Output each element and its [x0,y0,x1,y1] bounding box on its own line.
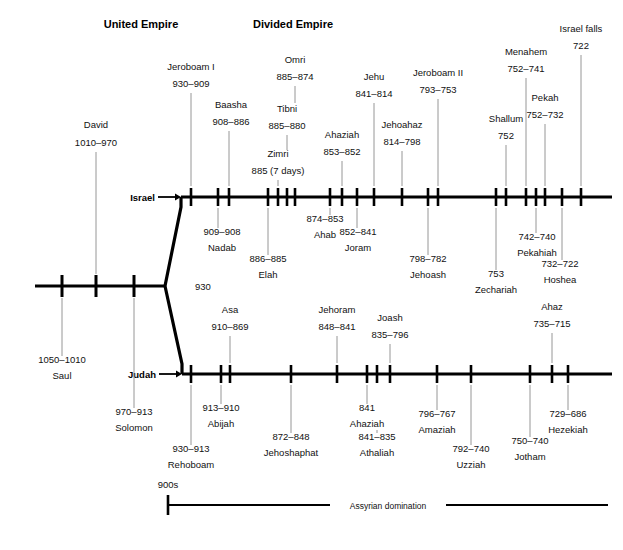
label-years-judah-joash: 835–796 [372,329,409,340]
label-years-israel-zimri: 885 (7 days) [252,165,305,176]
label-years-israel-pekah: 752–732 [527,109,564,120]
label-years-judah-uzziah: Uzziah [456,459,485,470]
label-name-israel-joram: 852–841 [340,226,377,237]
timeline-canvas: United EmpireDivided EmpireIsraelJudah93… [0,0,623,550]
label-name-judah-ahaziah: 841 [359,402,375,413]
label-years-israel-hoshea: Hoshea [544,274,577,285]
label-name-israel-pekah: Pekah [532,92,559,103]
label-years-israel-israel-falls: 722 [573,40,589,51]
label-name-judah-jehoram: Jehoram [319,304,356,315]
label-name-judah-joash: Joash [377,312,402,323]
label-name-israel-omri: Omri [285,54,306,65]
label-name-israel-nadab: 909–908 [204,226,241,237]
label-name-ue-solomon: 970–913 [116,406,153,417]
label-name-judah-athaliah: 841–835 [359,431,396,442]
fork-to-israel [165,197,181,286]
label-years-judah-jehoram: 848–841 [319,321,356,332]
label-name-israel-hoshea: 732–722 [542,258,579,269]
label-name-israel-shallum: Shallum [489,113,523,124]
label-name-israel-baasha: Baasha [215,99,248,110]
label-years-israel-nadab: Nadab [208,242,236,253]
label-years-judah-hezekiah: Hezekiah [548,424,588,435]
label-years-ue-saul: Saul [52,370,71,381]
label-years-judah-rehoboam: Rehoboam [168,459,215,470]
header-divided-empire: Divided Empire [253,18,333,30]
label-name-israel-elah: 886–885 [250,253,287,264]
label-years-judah-amaziah: Amaziah [419,424,456,435]
label-years-israel-joram: Joram [345,242,371,253]
label-years-israel-zechariah: Zechariah [475,284,517,295]
label-years-israel-tibni: 885–880 [269,120,306,131]
label-name-israel-jehu: Jehu [364,71,385,82]
israel-axis-label: Israel [130,192,155,203]
label-name-ue-david: David [84,119,108,130]
label-years-ue-solomon: Solomon [115,422,153,433]
label-years-judah-jotham: Jotham [514,451,545,462]
label-name-israel-ahab: 874–853 [307,213,344,224]
fork-to-judah [165,286,182,374]
band-label-0: Assyrian domination [350,501,427,511]
label-name-israel-jehoahaz: Jehoahaz [381,119,422,130]
label-name-judah-rehoboam: 930–913 [173,443,210,454]
label-name-israel-jeroboam-ii: Jeroboam II [413,67,463,78]
label-years-judah-asa: 910–869 [212,321,249,332]
label-years-israel-jeroboam-ii: 793–753 [420,84,457,95]
label-years-israel-omri: 885–874 [277,71,314,82]
label-name-judah-abijah: 913–910 [203,402,240,413]
fork-year-label: 930 [195,281,211,292]
band-start-label-0: 900s [158,479,179,490]
label-name-israel-jeroboam-i: Jeroboam I [167,61,215,72]
label-name-judah-uzziah: 792–740 [453,443,490,454]
label-years-judah-ahaziah: Ahaziah [350,418,384,429]
label-name-judah-hezekiah: 729–686 [550,408,587,419]
timeline-diagram: United EmpireDivided EmpireIsraelJudah93… [0,0,623,550]
label-name-ue-saul: 1050–1010 [38,354,86,365]
label-name-judah-jotham: 750–740 [512,435,549,446]
label-years-israel-jehu: 841–814 [356,88,393,99]
label-name-judah-ahaz: Ahaz [541,301,563,312]
label-years-israel-pekahiah: Pekahiah [517,247,557,258]
label-years-ue-david: 1010–970 [75,137,117,148]
label-years-israel-jehoahaz: 814–798 [384,136,421,147]
label-years-israel-ahab: Ahab [314,229,336,240]
label-name-judah-asa: Asa [222,304,239,315]
label-years-judah-abijah: Abijah [208,418,234,429]
label-name-israel-zimri: Zimri [267,148,288,159]
label-name-judah-amaziah: 796–767 [419,408,456,419]
label-name-israel-zechariah: 753 [488,268,504,279]
label-years-judah-athaliah: Athaliah [360,447,394,458]
label-years-israel-jehoash: Jehoash [410,269,446,280]
label-name-israel-jehoash: 798–782 [410,253,447,264]
label-years-israel-shallum: 752 [498,130,514,141]
judah-axis-label: Judah [128,369,156,380]
label-name-israel-tibni: Tibni [277,103,297,114]
label-years-israel-menahem: 752–741 [508,63,545,74]
header-united-empire: United Empire [104,18,179,30]
label-name-israel-israel-falls: Israel falls [560,23,603,34]
label-name-israel-pekahiah: 742–740 [519,231,556,242]
label-name-judah-jehoshaphat: 872–848 [273,431,310,442]
label-years-israel-elah: Elah [258,269,277,280]
label-years-israel-baasha: 908–886 [213,116,250,127]
label-years-israel-ahaziah: 853–852 [324,146,361,157]
label-years-israel-jeroboam-i: 930–909 [173,78,210,89]
label-name-israel-ahaziah: Ahaziah [325,129,359,140]
label-years-judah-jehoshaphat: Jehoshaphat [264,447,319,458]
label-name-israel-menahem: Menahem [505,46,547,57]
label-years-judah-ahaz: 735–715 [534,318,571,329]
